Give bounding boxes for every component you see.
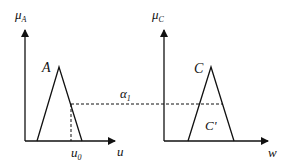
u0-label: u0 bbox=[71, 145, 82, 162]
fuzzy-set-a-triangle bbox=[37, 67, 82, 141]
set-c-label: C bbox=[194, 61, 204, 76]
fuzzy-inference-diagram: μA A u0 u α1 μC C C' w bbox=[0, 0, 293, 165]
mu-a-label: μA bbox=[14, 7, 27, 24]
set-a-label: A bbox=[41, 60, 51, 75]
alpha1-label: α1 bbox=[120, 86, 131, 103]
mu-c-label: μC bbox=[151, 7, 165, 24]
left-plot: μA A u0 u bbox=[14, 7, 124, 162]
right-plot: μC C C' w bbox=[151, 7, 277, 160]
w-axis-label: w bbox=[268, 145, 277, 160]
u-axis-label: u bbox=[117, 144, 124, 159]
set-c-prime-label: C' bbox=[205, 118, 217, 133]
